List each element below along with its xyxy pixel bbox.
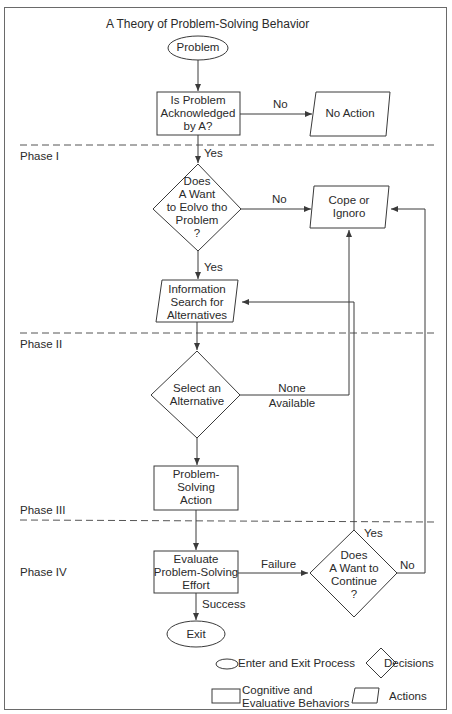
edge-label-yes-3: Yes: [364, 527, 383, 540]
legend-parallelogram-label: Actions: [389, 690, 427, 703]
node-info-search-line: Information: [167, 283, 227, 296]
edge-label-none-line: None: [269, 382, 315, 395]
node-acknowledged-line: Acknowledged: [161, 107, 236, 120]
node-want-solve-line: ?: [167, 227, 228, 240]
edge-label-failure: Failure: [261, 558, 296, 571]
node-exit: Exit: [186, 628, 205, 641]
node-want-solve: Does A Want to Eolvo tho Problem ?: [167, 175, 228, 240]
node-info-search-line: Alternatives: [167, 309, 227, 322]
edge-label-yes-1: Yes: [204, 147, 223, 160]
node-info-search: Information Search for Alternatives: [167, 283, 227, 322]
node-select: Select an Alternative: [170, 382, 224, 408]
edge-label-available-line: Available: [269, 397, 315, 410]
node-acknowledged: Is Problem Acknowledged by A?: [161, 94, 236, 133]
phase-2-label: Phase II: [20, 338, 62, 350]
node-cope: Cope or Ignoro: [329, 194, 370, 220]
legend-rect-line: Evaluative Behaviors: [242, 697, 349, 710]
node-evaluate-line: Problem-Solving: [154, 566, 238, 579]
node-ps-action-line: Problem-: [173, 468, 220, 481]
node-want-solve-line: to Eolvo tho: [167, 201, 228, 214]
node-continue-line: A Want to: [329, 562, 378, 575]
node-evaluate: Evaluate Problem-Solving Effort: [154, 553, 238, 592]
node-acknowledged-line: by A?: [161, 120, 236, 133]
node-want-solve-line: A Want: [167, 188, 228, 201]
node-want-solve-line: Does: [167, 175, 228, 188]
edge-label-no-3: No: [400, 559, 415, 572]
node-continue-line: ?: [329, 588, 378, 601]
node-no-action: No Action: [325, 107, 374, 120]
node-evaluate-line: Effort: [154, 579, 238, 592]
node-problem: Problem: [177, 41, 220, 54]
node-cope-line: Ignoro: [329, 207, 370, 220]
node-continue-line: Continue: [329, 575, 378, 588]
edge-label-no-2: No: [272, 193, 287, 206]
edge-label-no-1: No: [273, 98, 288, 111]
diagram-title: A Theory of Problem-Solving Behavior: [106, 17, 309, 31]
phase-4-label: Phase IV: [20, 566, 67, 578]
legend-ellipse-label: Enter and Exit Process: [238, 657, 355, 670]
node-continue-line: Does: [329, 549, 378, 562]
node-cope-line: Cope or: [329, 194, 370, 207]
node-ps-action: Problem- Solving Action: [173, 468, 220, 507]
node-ps-action-line: Action: [173, 494, 220, 507]
edge-label-yes-2: Yes: [204, 261, 223, 274]
legend-diamond-label: Decisions: [384, 657, 434, 670]
phase-1-label: Phase I: [20, 150, 59, 162]
legend-rect-line: Cognitive and: [242, 684, 349, 697]
node-acknowledged-line: Is Problem: [161, 94, 236, 107]
node-evaluate-line: Evaluate: [154, 553, 238, 566]
node-select-line: Select an: [170, 382, 224, 395]
edge-label-none-available: None Available: [269, 382, 315, 410]
node-ps-action-line: Solving: [173, 481, 220, 494]
node-continue: Does A Want to Continue ?: [329, 549, 378, 601]
legend-rect-label: Cognitive and Evaluative Behaviors: [242, 684, 349, 710]
node-info-search-line: Search for: [167, 296, 227, 309]
node-want-solve-line: Problem: [167, 214, 228, 227]
phase-3-label: Phase III: [20, 504, 65, 516]
node-select-line: Alternative: [170, 395, 224, 408]
edge-label-success: Success: [202, 598, 245, 611]
